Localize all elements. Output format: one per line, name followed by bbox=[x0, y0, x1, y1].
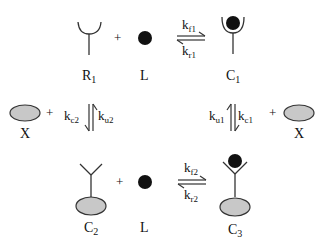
rate-kc1: kc1 bbox=[238, 108, 253, 125]
plus-sign-bottom: + bbox=[116, 174, 123, 189]
label-l-bottom: L bbox=[140, 220, 149, 235]
label-x-left: X bbox=[20, 126, 30, 141]
plus-sign-left: + bbox=[46, 105, 53, 120]
equilibrium-arrows-left-icon bbox=[85, 104, 97, 131]
ligand-l-bottom-icon bbox=[138, 175, 152, 189]
label-x-right: X bbox=[294, 126, 304, 141]
membrane-protein-x-right-icon bbox=[284, 105, 314, 121]
membrane-protein-x-left-icon bbox=[10, 105, 40, 121]
label-r1: R1 bbox=[82, 68, 96, 85]
reaction-scheme-diagram: R1 + L kf1 kr1 C1 X + kc2 ku2 ku1 kc1 + … bbox=[0, 0, 325, 244]
rate-kf1: kf1 bbox=[182, 17, 196, 34]
equilibrium-arrows-bottom-icon bbox=[178, 176, 206, 188]
rate-ku1: ku1 bbox=[209, 108, 225, 125]
plus-sign: + bbox=[114, 30, 121, 45]
label-c2: C2 bbox=[84, 220, 98, 237]
label-c1: C1 bbox=[226, 68, 240, 85]
complex-c3-icon bbox=[220, 154, 250, 216]
rate-kr1: kr1 bbox=[182, 43, 196, 60]
label-c3: C3 bbox=[228, 222, 242, 239]
rate-kc2: kc2 bbox=[64, 108, 79, 125]
complex-c2-icon bbox=[76, 164, 106, 215]
receptor-r1-icon bbox=[78, 22, 101, 55]
rate-kf2: kf2 bbox=[184, 160, 198, 177]
plus-sign-right: + bbox=[269, 105, 276, 120]
rate-kr2: kr2 bbox=[184, 187, 198, 204]
ligand-l-top-icon bbox=[138, 31, 152, 45]
label-l-top: L bbox=[140, 68, 149, 83]
rate-ku2: ku2 bbox=[98, 108, 114, 125]
complex-c1-icon bbox=[222, 16, 244, 54]
